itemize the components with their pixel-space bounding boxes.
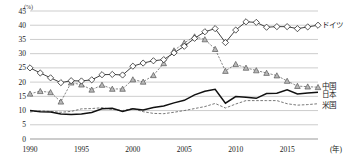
x-axis-unit-label: (年) bbox=[330, 144, 342, 154]
y-tick-label: 10 bbox=[19, 106, 27, 115]
x-tick-label: 2015 bbox=[280, 145, 295, 154]
y-tick-label: 25 bbox=[19, 63, 27, 72]
chart-canvas: 454035302520151050 199019952000200520102… bbox=[0, 0, 353, 162]
y-axis-unit-label: (%) bbox=[24, 4, 33, 11]
y-tick-label: 15 bbox=[19, 92, 27, 101]
x-tick-label: 2000 bbox=[125, 145, 140, 154]
x-tick-label: 2005 bbox=[177, 145, 192, 154]
x-tick-label: 2010 bbox=[228, 145, 243, 154]
legend-label-usa: 米国 bbox=[322, 100, 336, 110]
x-tick-label: 1995 bbox=[74, 145, 89, 154]
y-tick-label: 35 bbox=[19, 35, 27, 44]
y-tick-label: 0 bbox=[22, 135, 26, 144]
y-tick-label: 5 bbox=[22, 120, 26, 129]
legend-label-japan: 日本 bbox=[322, 89, 337, 99]
line-chart: 454035302520151050 199019952000200520102… bbox=[0, 0, 353, 162]
chart-background bbox=[0, 0, 353, 162]
legend-label-germany: ドイツ bbox=[322, 21, 343, 30]
x-tick-label: 1990 bbox=[23, 145, 38, 154]
y-tick-label: 40 bbox=[19, 21, 27, 30]
y-tick-label: 30 bbox=[19, 49, 27, 58]
y-tick-label: 20 bbox=[19, 78, 27, 87]
